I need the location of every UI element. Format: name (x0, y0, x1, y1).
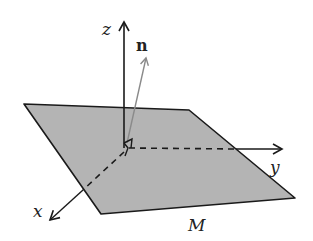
diagram-canvas: z n y x M (0, 0, 313, 241)
plane-m (24, 104, 295, 214)
coordinate-diagram: z n y x M (0, 0, 313, 241)
plane-label: M (187, 215, 206, 235)
x-axis-label: x (33, 201, 43, 221)
normal-vector-label: n (136, 36, 148, 55)
x-axis (50, 190, 83, 220)
y-axis-label: y (269, 157, 280, 177)
z-axis-label: z (101, 19, 112, 39)
